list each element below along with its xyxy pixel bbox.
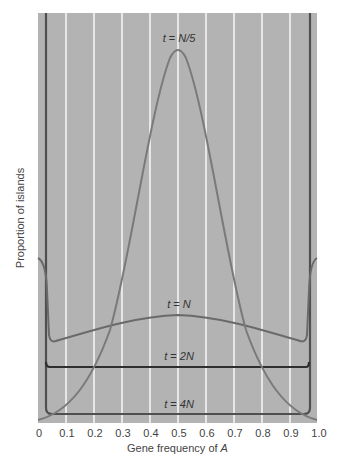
x-tick: 1.0 [311, 427, 326, 439]
x-tick: 0.8 [255, 427, 270, 439]
x-tick: 0.2 [87, 427, 102, 439]
label-value: 4N [180, 398, 194, 410]
label-eq: = [167, 350, 180, 362]
label-value: N [183, 298, 191, 310]
x-tick: 0.1 [59, 427, 74, 439]
x-tick: 0.7 [227, 427, 242, 439]
label-eq: = [167, 398, 180, 410]
x-tick: 0.4 [143, 427, 158, 439]
x-axis-label-var: A [221, 442, 228, 454]
x-tick: 0.5 [171, 427, 186, 439]
x-tick: 0 [36, 427, 42, 439]
x-tick: 0.6 [199, 427, 214, 439]
label-t-4n: t = 4N [164, 398, 194, 410]
label-t-2n: t = 2N [164, 350, 194, 362]
label-eq: = [166, 32, 179, 44]
label-value: N/5 [178, 32, 195, 44]
label-t-n: t = N [167, 298, 191, 310]
label-value: 2N [180, 350, 194, 362]
chart-plot [0, 0, 337, 466]
x-axis-label-text: Gene frequency of [127, 442, 221, 454]
y-axis-label: Proportion of islands [14, 168, 26, 268]
label-t-n5: t = N/5 [163, 32, 196, 44]
x-tick: 0.3 [115, 427, 130, 439]
x-axis-label: Gene frequency of A [0, 442, 337, 454]
x-tick: 0.9 [283, 427, 298, 439]
label-eq: = [170, 298, 183, 310]
